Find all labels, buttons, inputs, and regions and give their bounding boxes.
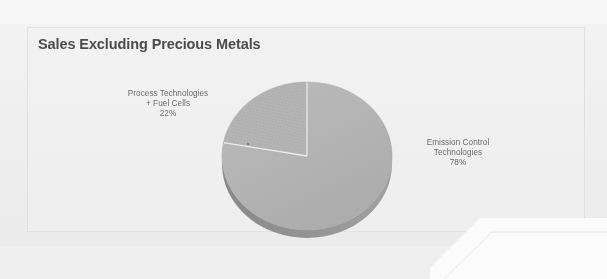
pie-label-line-2: + Fuel Cells xyxy=(104,99,232,109)
screenshot-root: Sales Excluding Precious Metals xyxy=(0,0,607,279)
pie-label-value-78: 78% xyxy=(396,158,520,168)
pie-chart xyxy=(215,72,405,247)
pie-label-line-1: Emission Control xyxy=(396,138,520,148)
pie-label-line-2: Technologies xyxy=(396,148,520,158)
pie-label-value-22: 22% xyxy=(104,109,232,119)
pie-label-line-1: Process Technologies xyxy=(104,89,232,99)
pie-label-emission-control: Emission Control Technologies 78% xyxy=(396,138,520,169)
pie-chart-svg xyxy=(215,72,405,247)
pie-label-process-technologies: Process Technologies + Fuel Cells 22% xyxy=(104,89,232,120)
chart-title: Sales Excluding Precious Metals xyxy=(38,36,261,52)
